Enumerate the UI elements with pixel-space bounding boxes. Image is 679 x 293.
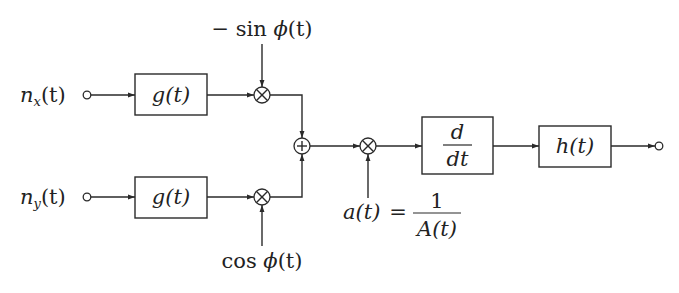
- block-diagram: nx(t) g(t) − sin ϕ(t) ny(t) g(t) cos ϕ(t…: [0, 0, 679, 293]
- filter-block-bottom: g(t): [135, 177, 207, 218]
- label-gain-a: a(t) = 1 A(t): [343, 189, 461, 241]
- summing-junction: [294, 138, 310, 154]
- multiplier-bottom: [254, 189, 270, 205]
- svg-text:dt: dt: [447, 147, 469, 171]
- svg-text:A(t): A(t): [415, 217, 457, 241]
- input-terminal-nx: [83, 91, 91, 99]
- svg-text:d: d: [451, 120, 464, 144]
- svg-text:g(t): g(t): [152, 185, 190, 209]
- svg-text:ny(t): ny(t): [20, 185, 66, 211]
- svg-text:nx(t): nx(t): [20, 83, 66, 109]
- multiplier-top: [254, 87, 270, 103]
- derivative-block: d dt: [422, 117, 493, 174]
- input-label-ny: ny(t): [20, 185, 66, 211]
- wire-mult-top-to-sum: [270, 95, 302, 138]
- output-terminal: [655, 142, 663, 150]
- label-minus-sin-phi: − sin ϕ(t): [211, 17, 312, 41]
- multiplier-gain: [360, 138, 376, 154]
- svg-text:a(t): a(t): [343, 200, 380, 224]
- output-filter-block: h(t): [539, 126, 611, 167]
- wire-mult-bottom-to-sum: [270, 154, 302, 197]
- filter-block-top: g(t): [135, 74, 207, 115]
- svg-text:− sin ϕ(t): − sin ϕ(t): [211, 17, 312, 41]
- svg-text:cos ϕ(t): cos ϕ(t): [221, 249, 302, 273]
- svg-text:g(t): g(t): [152, 83, 190, 107]
- label-cos-phi: cos ϕ(t): [221, 249, 302, 273]
- input-terminal-ny: [83, 193, 91, 201]
- svg-text:h(t): h(t): [556, 134, 594, 158]
- input-label-nx: nx(t): [20, 83, 66, 109]
- svg-text:=: =: [389, 200, 407, 224]
- svg-text:1: 1: [430, 189, 443, 213]
